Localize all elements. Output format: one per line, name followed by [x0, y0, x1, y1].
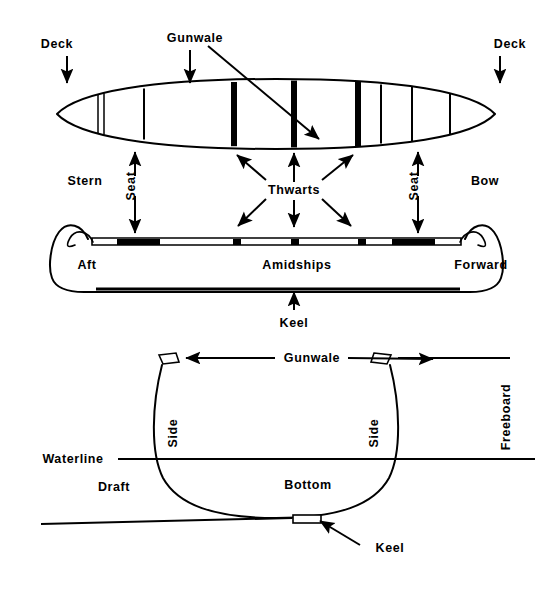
profile-label-keel: Keel [280, 316, 309, 330]
section-label-gunwale: Gunwale [284, 351, 340, 365]
section-label-freeboard: Freeboard [499, 384, 513, 451]
plan-label-stern: Stern [68, 174, 103, 188]
plan-label-deck-left: Deck [41, 37, 73, 51]
plan-label-seat-left: Seat [124, 171, 138, 200]
section-label-waterline: Waterline [42, 452, 103, 466]
plan-thwart-forward [355, 82, 361, 146]
plan-label-seat-right: Seat [407, 171, 421, 200]
section-label-draft: Draft [98, 480, 130, 494]
section-hull-outline [154, 365, 398, 518]
section-gunwale-left [159, 353, 179, 364]
profile-label-aft: Aft [77, 258, 96, 272]
plan-leader-gunwale-bottom [208, 46, 319, 139]
section-leader-keel [320, 521, 360, 545]
profile-label-forward: Forward [454, 258, 508, 272]
plan-hull-outline [57, 79, 495, 149]
plan-label-thwarts: Thwarts [268, 183, 320, 197]
thwarts-label-group: Thwarts [237, 153, 353, 227]
thwarts-leader-up-left [237, 155, 266, 180]
plan-thwart-center [291, 81, 297, 148]
section-view-group: Gunwale Side Side Freeboard Waterline Dr… [41, 351, 535, 555]
plan-view-group: Deck Deck Gunwale Stern Bow Seat Se [41, 31, 526, 233]
thwarts-leader-down-right [322, 199, 351, 226]
section-label-side-right: Side [367, 419, 381, 448]
section-label-side-left: Side [166, 419, 180, 448]
plan-label-deck-right: Deck [494, 37, 526, 51]
plan-label-gunwale: Gunwale [167, 31, 223, 45]
section-label-keel: Keel [376, 541, 405, 555]
profile-thwart-aft [233, 239, 241, 245]
plan-label-seat-left-group: Seat [124, 152, 138, 233]
thwarts-leader-down-left [238, 199, 266, 226]
section-keel-block [293, 515, 321, 523]
plan-thwart-aft [231, 82, 237, 146]
canoe-anatomy-diagram: Deck Deck Gunwale Stern Bow Seat Se [0, 0, 553, 593]
plan-label-seat-right-group: Seat [407, 152, 421, 233]
section-label-bottom: Bottom [284, 478, 331, 492]
section-draft-baseline [41, 518, 292, 524]
profile-label-amidships: Amidships [262, 258, 331, 272]
profile-seat-forward [392, 239, 435, 245]
profile-inner-stem-aft [68, 232, 93, 247]
profile-inner-stem-fwd [460, 232, 485, 247]
profile-view-group: Aft Amidships Forward Keel [50, 225, 508, 330]
profile-thwart-center [291, 239, 299, 245]
profile-seat-aft [117, 239, 160, 245]
plan-label-bow: Bow [471, 174, 499, 188]
thwarts-leader-up-right [322, 155, 353, 180]
diagram-canvas: Deck Deck Gunwale Stern Bow Seat Se [0, 0, 553, 593]
profile-thwart-forward [358, 239, 366, 245]
